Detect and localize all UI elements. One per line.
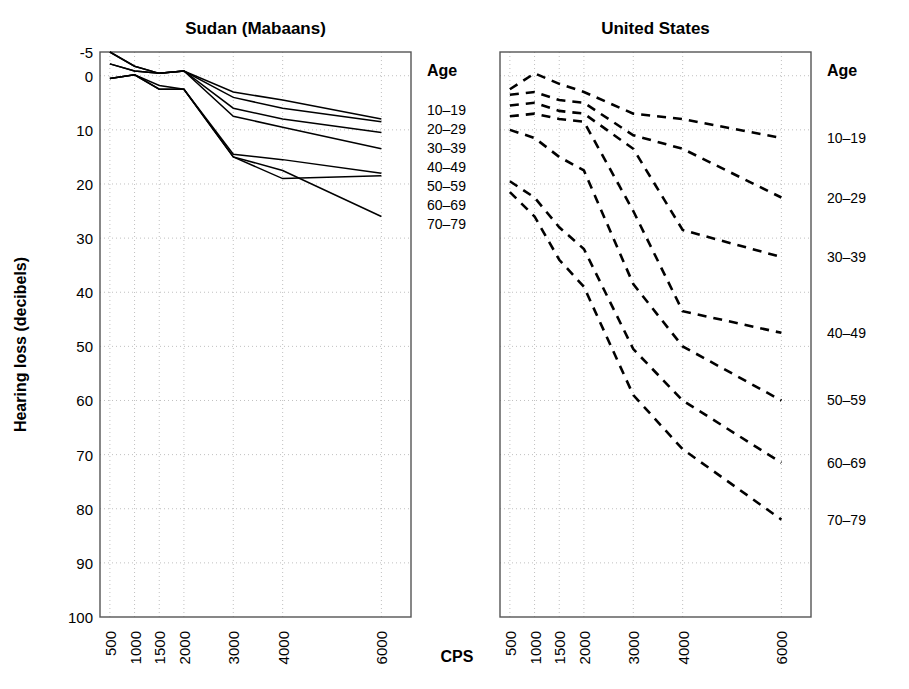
ytick-label-60: 60 [76, 392, 93, 409]
legend-label-sudan-10-19: 10–19 [427, 102, 466, 118]
y-axis-title: Hearing loss (decibels) [12, 257, 29, 432]
xtick-label-sudan-3000: 3000 [225, 631, 242, 664]
x-axis-title: CPS [441, 648, 474, 665]
series-line-united-states-60-69 [510, 181, 782, 462]
legend-label-united-states-50-59: 50–59 [827, 392, 866, 408]
series-line-sudan-30-39 [110, 52, 382, 133]
legend-label-united-states-60-69: 60–69 [827, 455, 866, 471]
series-line-united-states-70-79 [510, 192, 782, 519]
legend-label-sudan-60-69: 60–69 [427, 197, 466, 213]
xtick-label-sudan-1000: 1000 [127, 631, 144, 664]
legend-label-united-states-20-29: 20–29 [827, 190, 866, 206]
legend-title-sudan: Age [427, 62, 457, 79]
legend-label-sudan-30-39: 30–39 [427, 140, 466, 156]
series-line-sudan-40-49 [110, 64, 382, 149]
ytick-label-10: 10 [76, 122, 93, 139]
ytick-label-40: 40 [76, 284, 93, 301]
legend-label-sudan-50-59: 50–59 [427, 178, 466, 194]
xtick-label-sudan-2000: 2000 [176, 631, 193, 664]
xtick-label-united-states-1500: 1500 [551, 631, 568, 664]
series-line-united-states-30-39 [510, 103, 782, 257]
panel-sudan: Sudan (Mabaans)5001000150020003000400060… [100, 19, 466, 664]
ytick-label-80: 80 [76, 501, 93, 518]
xtick-label-sudan-1500: 1500 [151, 631, 168, 664]
ytick-label-0: 0 [85, 68, 93, 85]
xtick-label-united-states-2000: 2000 [576, 631, 593, 664]
legend-label-united-states-70-79: 70–79 [827, 512, 866, 528]
legend-label-united-states-30-39: 30–39 [827, 249, 866, 265]
xtick-label-united-states-6000: 6000 [773, 631, 790, 664]
ytick-label-30: 30 [76, 230, 93, 247]
ytick-label-100: 100 [68, 609, 93, 626]
figure-container: Sudan (Mabaans)5001000150020003000400060… [0, 0, 909, 689]
hearing-loss-chart: Sudan (Mabaans)5001000150020003000400060… [0, 0, 909, 689]
y-axis: -50102030405060708090100Hearing loss (de… [12, 44, 93, 626]
xtick-label-sudan-6000: 6000 [373, 631, 390, 664]
ytick-label-70: 70 [76, 447, 93, 464]
xtick-label-united-states-4000: 4000 [675, 631, 692, 664]
series-line-united-states-10-19 [510, 73, 782, 138]
ytick-label-90: 90 [76, 555, 93, 572]
xtick-label-united-states-3000: 3000 [625, 631, 642, 664]
xtick-label-united-states-500: 500 [502, 631, 519, 656]
ytick-label-50: 50 [76, 338, 93, 355]
panel-title-sudan: Sudan (Mabaans) [185, 19, 326, 38]
legend-label-sudan-40-49: 40–49 [427, 159, 466, 175]
panel-frame-sudan [100, 52, 411, 617]
series-line-sudan-50-59 [110, 75, 382, 173]
series-line-sudan-10-19 [110, 52, 382, 119]
legend-label-united-states-40-49: 40–49 [827, 325, 866, 341]
series-line-united-states-20-29 [510, 92, 782, 198]
series-line-sudan-70-79 [110, 75, 382, 217]
legend-label-sudan-70-79: 70–79 [427, 216, 466, 232]
ytick-label--5: -5 [80, 44, 93, 61]
ytick-label-20: 20 [76, 176, 93, 193]
panel-title-united-states: United States [601, 19, 710, 38]
panel-united-states: United States500100015002000300040006000… [500, 19, 866, 664]
xtick-label-sudan-4000: 4000 [275, 631, 292, 664]
xtick-label-united-states-1000: 1000 [527, 631, 544, 664]
xtick-label-sudan-500: 500 [102, 631, 119, 656]
legend-label-united-states-10-19: 10–19 [827, 130, 866, 146]
panel-frame-united-states [500, 52, 811, 617]
legend-label-sudan-20-29: 20–29 [427, 121, 466, 137]
legend-title-united-states: Age [827, 62, 857, 79]
